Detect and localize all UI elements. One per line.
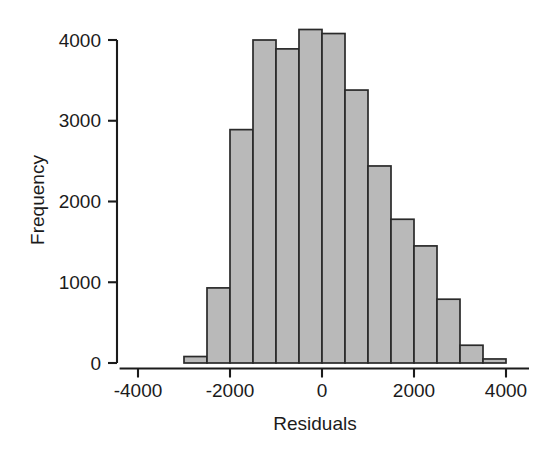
histogram-bar xyxy=(368,166,391,363)
histogram-bar xyxy=(460,345,483,363)
histogram-bar xyxy=(207,288,230,363)
x-axis-tick-label: 4000 xyxy=(485,380,527,401)
histogram-bar xyxy=(230,130,253,363)
y-axis-tick-label: 4000 xyxy=(59,30,101,51)
x-axis-tick-label: -4000 xyxy=(114,380,163,401)
y-axis-title: Frequency xyxy=(27,155,48,245)
residuals-histogram-chart: 01000200030004000 -4000-2000020004000 Re… xyxy=(0,0,555,457)
x-axis-tick-label: 2000 xyxy=(393,380,435,401)
histogram-figure: 01000200030004000 -4000-2000020004000 Re… xyxy=(0,0,555,457)
histogram-bar xyxy=(253,40,276,363)
x-axis-tick-label: -2000 xyxy=(206,380,255,401)
y-axis-tick-label: 1000 xyxy=(59,272,101,293)
y-axis-tick-label: 0 xyxy=(90,353,101,374)
histogram-bar xyxy=(276,49,299,363)
y-axis-tick-label: 3000 xyxy=(59,110,101,131)
histogram-bar xyxy=(437,299,460,363)
histogram-bar xyxy=(299,30,322,364)
histogram-bar xyxy=(483,359,506,363)
histogram-bar xyxy=(184,357,207,363)
histogram-bar xyxy=(391,219,414,363)
y-axis-tick-label: 2000 xyxy=(59,191,101,212)
x-axis-tick-label: 0 xyxy=(317,380,328,401)
histogram-bar xyxy=(345,90,368,363)
histogram-bar xyxy=(414,246,437,363)
histogram-bar xyxy=(322,34,345,363)
x-axis-title: Residuals xyxy=(273,413,356,434)
